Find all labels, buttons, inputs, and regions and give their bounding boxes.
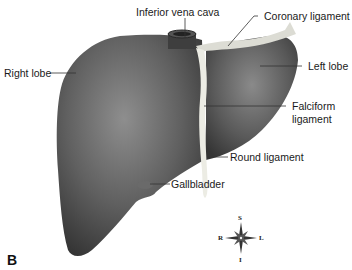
label-round-ligament: Round ligament bbox=[230, 151, 304, 163]
gallbladder-shape bbox=[137, 181, 153, 189]
compass-left: L bbox=[259, 234, 264, 242]
label-inferior-vena-cava: Inferior vena cava bbox=[136, 6, 219, 18]
compass-right: R bbox=[218, 234, 223, 242]
liver-illustration bbox=[0, 0, 352, 270]
label-gallbladder: Gallbladder bbox=[171, 178, 225, 190]
right-lobe-shape bbox=[57, 35, 206, 256]
left-lobe-shape bbox=[206, 35, 298, 160]
label-falciform-ligament: ligament bbox=[292, 113, 332, 125]
label-coronary-ligament: Coronary ligament bbox=[264, 10, 350, 22]
panel-label: B bbox=[7, 252, 17, 268]
compass-superior: S bbox=[238, 214, 242, 222]
label-right-lobe: Right lobe bbox=[4, 67, 51, 79]
label-falciform: Falciform bbox=[292, 100, 335, 112]
compass-inferior: I bbox=[239, 256, 242, 264]
label-left-lobe: Left lobe bbox=[308, 60, 348, 72]
compass-rose-icon bbox=[225, 222, 257, 254]
